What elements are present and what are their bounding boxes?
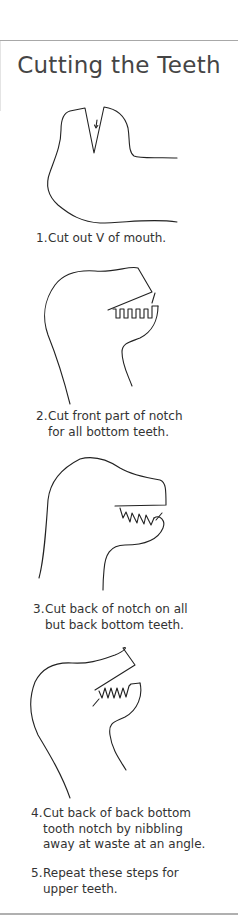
figure-step-4 [0, 640, 238, 805]
step-2-caption: 2.Cut front part of notch for all bottom… [36, 409, 183, 440]
arrow-icon [152, 293, 155, 303]
step-5-caption: 5.Repeat these steps for upper teeth. [31, 866, 179, 897]
page-title: Cutting the Teeth [0, 52, 238, 78]
step-4-caption: 4.Cut back of back bottom tooth notch by… [31, 806, 205, 853]
step-1-caption: 1.Cut out V of mouth. [36, 231, 166, 247]
arrow-icon [93, 699, 99, 706]
figure-step-1 [0, 95, 238, 230]
figure-step-2 [0, 258, 238, 408]
top-divider [0, 40, 238, 41]
bottom-divider [0, 913, 238, 915]
figure-step-3 [0, 455, 238, 595]
step-3-caption: 3.Cut back of notch on all but back bott… [33, 602, 188, 633]
